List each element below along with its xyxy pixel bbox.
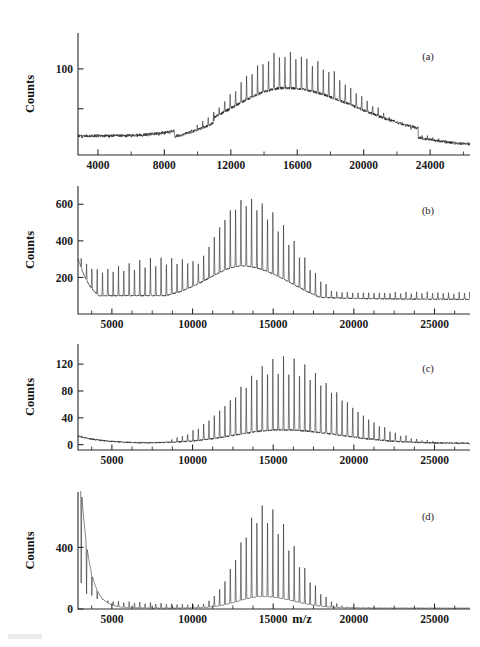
- panel-b-plot: 500010000150002000025000200400600Counts(…: [0, 178, 480, 336]
- x-tick-label: 8000: [153, 159, 176, 171]
- spectrum-trace: [78, 356, 470, 444]
- x-tick-label: 25000: [420, 318, 449, 330]
- panel-a-plot: 4000800012000160002000024000100Counts(a): [0, 0, 480, 178]
- axis-lines: [78, 492, 470, 609]
- y-axis-title: Counts: [23, 378, 37, 416]
- x-tick-label: 20000: [339, 454, 368, 466]
- x-tick-label: 24000: [416, 159, 445, 171]
- y-tick-label: 0: [67, 439, 73, 451]
- y-tick-label: 0: [67, 603, 73, 615]
- panel-b: 500010000150002000025000200400600Counts(…: [0, 178, 480, 336]
- y-tick-label: 100: [56, 63, 74, 75]
- spectrum-trace: [78, 199, 470, 300]
- y-tick-label: 40: [62, 412, 74, 424]
- x-tick-label: 20000: [349, 159, 378, 171]
- panel-d: 5000100001500020000250000400Countsm/z(d): [0, 486, 480, 647]
- x-axis-title: m/z: [292, 612, 312, 626]
- x-tick-label: 15000: [259, 454, 288, 466]
- x-tick-label: 25000: [420, 613, 449, 625]
- y-tick-label: 400: [56, 542, 74, 554]
- x-tick-label: 10000: [178, 318, 207, 330]
- y-tick-label: 400: [56, 235, 74, 247]
- panel-letter: (c): [422, 363, 434, 375]
- y-tick-label: 600: [56, 198, 74, 210]
- y-axis-title: Counts: [23, 231, 37, 269]
- x-tick-label: 16000: [283, 159, 312, 171]
- y-tick-label: 120: [56, 358, 74, 370]
- axis-lines: [78, 344, 470, 450]
- scan-artifact: [8, 634, 42, 639]
- panel-c: 50001000015000200002500004080120Counts(c…: [0, 336, 480, 486]
- x-tick-label: 10000: [178, 613, 207, 625]
- panel-letter: (d): [422, 511, 435, 523]
- mass-spectra-figure: 4000800012000160002000024000100Counts(a)…: [0, 0, 480, 647]
- x-tick-label: 4000: [86, 159, 109, 171]
- x-tick-label: 25000: [420, 454, 449, 466]
- x-tick-label: 15000: [259, 318, 288, 330]
- x-tick-label: 15000: [259, 613, 288, 625]
- x-tick-label: 12000: [216, 159, 245, 171]
- y-axis-title: Counts: [23, 531, 37, 569]
- panel-letter: (b): [422, 205, 435, 217]
- y-tick-label: 200: [56, 272, 74, 284]
- spectrum-trace: [78, 52, 470, 145]
- x-tick-label: 5000: [100, 318, 123, 330]
- panel-letter: (a): [422, 51, 434, 63]
- spectrum-trace: [78, 486, 470, 608]
- panel-d-plot: 5000100001500020000250000400Countsm/z(d): [0, 486, 480, 647]
- y-axis-title: Counts: [23, 75, 37, 113]
- x-tick-label: 20000: [339, 613, 368, 625]
- x-tick-label: 5000: [100, 613, 123, 625]
- x-tick-label: 5000: [100, 454, 123, 466]
- y-tick-label: 80: [62, 385, 74, 397]
- x-tick-label: 20000: [339, 318, 368, 330]
- panel-a: 4000800012000160002000024000100Counts(a): [0, 0, 480, 178]
- x-tick-label: 10000: [178, 454, 207, 466]
- panel-c-plot: 50001000015000200002500004080120Counts(c…: [0, 336, 480, 486]
